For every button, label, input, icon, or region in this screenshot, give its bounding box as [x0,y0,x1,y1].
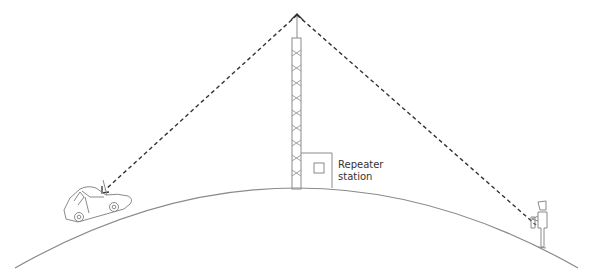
antenna-tower [292,16,301,189]
arrow-heads [102,14,303,193]
repeater-station-label: Repeater station [338,159,383,183]
car-with-antenna [64,180,132,222]
tower-to-car-signal [105,15,297,190]
repeater-diagram [0,0,593,272]
repeater-label-line2: station [338,171,383,183]
earth-curve [15,188,578,268]
signal-lines [105,15,536,225]
repeater-label-line1: Repeater [338,159,383,171]
repeater-station-building [301,153,332,188]
person-with-handheld-radio [531,201,547,248]
tower-to-person-signal [297,15,536,225]
